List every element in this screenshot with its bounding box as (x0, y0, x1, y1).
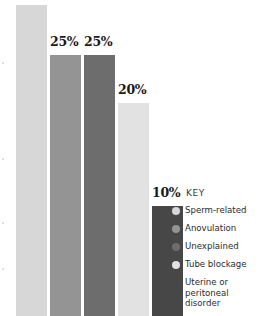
chart-legend: KEY Sperm-related Anovulation Unexplaine… (172, 188, 266, 315)
legend-title: KEY (186, 188, 266, 198)
infertility-causes-bar-chart: 25% 25% 20% 10% KEY Sperm-related Anovul… (0, 0, 266, 316)
legend-swatch-icon (172, 225, 180, 233)
legend-swatch-icon (172, 261, 180, 269)
legend-swatch-icon (172, 243, 180, 251)
legend-item-unexplained: Unexplained (172, 241, 266, 253)
legend-swatch-icon (172, 207, 180, 215)
page-edge-artifact (2, 158, 4, 160)
legend-item-label: Unexplained (185, 241, 239, 252)
bar-value-label: 20% (118, 84, 146, 97)
bar-sperm-related (16, 5, 47, 316)
chart-plot-area: 25% 25% 20% 10% (0, 0, 190, 316)
page-edge-artifact (2, 62, 4, 64)
bar-anovulation (50, 55, 81, 316)
legend-item-label: Tube blockage (185, 259, 247, 270)
legend-item-label: Sperm-related (185, 205, 246, 216)
bar-value-label: 25% (84, 36, 112, 49)
bar-value-label: 25% (50, 36, 78, 49)
legend-item-tube-blockage: Tube blockage (172, 259, 266, 271)
bar-tube-blockage (118, 103, 149, 316)
legend-item-label: Uterine or peritoneal disorder (185, 277, 266, 309)
legend-item-sperm-related: Sperm-related (172, 205, 266, 217)
bar-unexplained (84, 55, 115, 316)
legend-item-label: Anovulation (185, 223, 236, 234)
legend-item-anovulation: Anovulation (172, 223, 266, 235)
page-edge-artifact (2, 222, 4, 224)
legend-item-uterine-peritoneal-disorder: Uterine or peritoneal disorder (172, 277, 266, 309)
page-edge-artifact (2, 268, 4, 270)
legend-swatch-icon (172, 279, 180, 287)
